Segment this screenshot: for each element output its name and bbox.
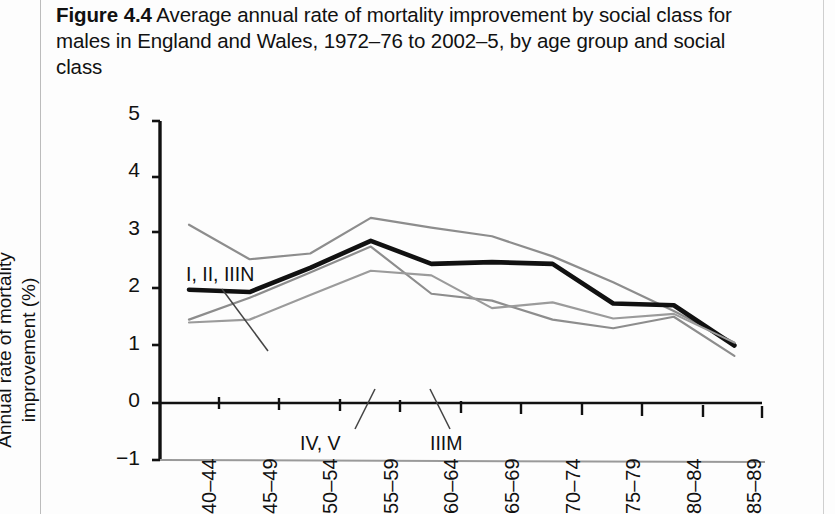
x-tick-label: 60–64 [440, 458, 463, 514]
x-tick-label: 85–89 [743, 458, 766, 514]
series-annotation-label: IIIM [430, 432, 463, 455]
chart-container: Annual rate of mortality improvement (%) [0, 96, 835, 514]
figure-caption-text: Average annual rate of mortality improve… [56, 3, 732, 78]
x-tick-label: 80–84 [683, 458, 706, 514]
x-tick-label: 65–69 [501, 458, 524, 514]
figure-caption: Figure 4.4 Average annual rate of mortal… [56, 2, 771, 80]
series-annotation-label: IV, V [300, 432, 340, 455]
page-canvas: Figure 4.4 Average annual rate of mortal… [0, 0, 835, 514]
x-tick-label: 45–49 [259, 458, 282, 514]
x-tick-label: 75–79 [622, 458, 645, 514]
series-line-i-ii-iiin [189, 218, 734, 343]
y-tick-label: 3 [100, 216, 140, 240]
figure-number: Figure 4.4 [56, 3, 152, 26]
series-annotation-label: I, II, IIIN [186, 263, 254, 286]
annotation-leader-line [430, 389, 450, 429]
y-tick-label: 4 [100, 158, 140, 182]
y-tick-label: −1 [100, 446, 140, 470]
y-tick-label: 2 [100, 273, 140, 297]
y-tick-label: 0 [100, 388, 140, 412]
annotation-leader-lines [222, 289, 450, 429]
x-tick-label: 40–44 [198, 458, 221, 514]
x-tick-label: 55–59 [380, 458, 403, 514]
x-tick-marks [219, 397, 762, 418]
x-tick-label: 70–74 [562, 458, 585, 514]
y-tick-label: 1 [100, 331, 140, 355]
x-tick-label: 50–54 [319, 458, 342, 514]
data-series-layer [189, 218, 734, 356]
annotation-leader-line [355, 389, 375, 429]
y-tick-label: 5 [100, 101, 140, 125]
